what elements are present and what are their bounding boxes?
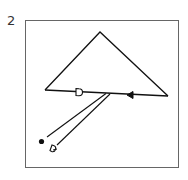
triangle-base bbox=[45, 90, 168, 96]
diagram-canvas bbox=[0, 0, 188, 180]
open-d-marker-base bbox=[76, 89, 83, 96]
open-d-marker-end bbox=[50, 145, 57, 152]
figure-frame bbox=[26, 21, 179, 168]
triangle bbox=[45, 32, 168, 96]
filled-dot-icon bbox=[39, 139, 44, 144]
filled-arrowhead-icon bbox=[127, 92, 133, 99]
double-line bbox=[47, 94, 110, 146]
